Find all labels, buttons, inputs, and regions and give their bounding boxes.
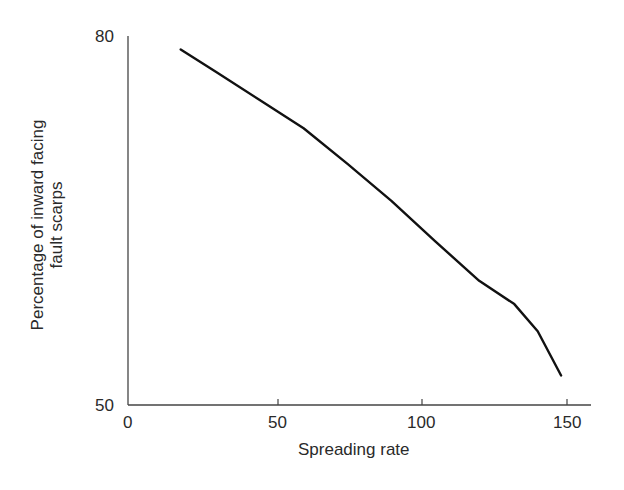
x-tick-label-0: 0 [123, 413, 132, 433]
x-tick-label-100: 100 [407, 413, 435, 433]
y-axis-label-line1: Percentage of inward facing [28, 110, 47, 340]
y-axis-label-line2: fault scarps [47, 110, 66, 340]
data-line [181, 50, 561, 376]
y-tick-label-50: 50 [95, 396, 114, 416]
x-axis-label: Spreading rate [298, 440, 410, 460]
chart-canvas [0, 0, 624, 490]
y-tick-label-80: 80 [95, 27, 114, 47]
y-axis-label: Percentage of inward facing fault scarps [28, 110, 66, 340]
x-tick-label-50: 50 [268, 413, 287, 433]
x-tick-label-150: 150 [553, 413, 581, 433]
